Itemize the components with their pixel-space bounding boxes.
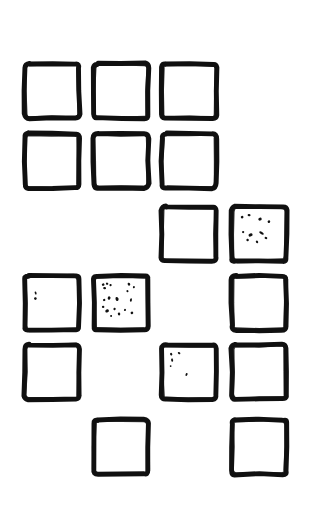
grid-square[interactable] <box>228 272 290 334</box>
speck-mark <box>170 365 172 367</box>
grid-square[interactable] <box>228 341 290 403</box>
grid-square-speckled[interactable] <box>90 272 152 334</box>
square-fill <box>232 345 285 398</box>
grid-gap <box>228 130 290 192</box>
speck-mark <box>102 306 104 308</box>
square-fill <box>162 64 215 117</box>
grid-square[interactable] <box>158 203 220 265</box>
grid-square[interactable] <box>90 130 152 192</box>
square-fill <box>25 64 78 117</box>
square-fill <box>25 134 78 187</box>
speck-mark <box>242 231 244 233</box>
grid-square[interactable] <box>21 60 83 122</box>
square-fill <box>232 420 285 473</box>
square-fill <box>25 276 78 329</box>
figure-canvas <box>0 0 312 517</box>
square-fill <box>232 276 285 329</box>
grid-square[interactable] <box>228 416 290 478</box>
square-fill <box>162 134 215 187</box>
grid-gap <box>21 416 83 478</box>
grid-square[interactable] <box>21 130 83 192</box>
grid-square-speckled[interactable] <box>21 272 83 334</box>
grid-gap <box>158 416 220 478</box>
square-fill <box>162 207 215 260</box>
grid-gap <box>158 272 220 334</box>
square-fill <box>232 207 285 260</box>
grid-gap <box>21 203 83 265</box>
grid-gap <box>90 203 152 265</box>
square-fill <box>25 345 78 398</box>
square-fill <box>94 420 147 473</box>
grid-square[interactable] <box>21 341 83 403</box>
square-fill <box>94 134 147 187</box>
square-fill <box>94 64 147 117</box>
grid-square-speckled[interactable] <box>158 341 220 403</box>
grid-gap <box>228 60 290 122</box>
grid-square[interactable] <box>90 416 152 478</box>
grid-gap <box>90 341 152 403</box>
grid-square-speckled[interactable] <box>228 203 290 265</box>
grid-square[interactable] <box>90 60 152 122</box>
grid-square[interactable] <box>158 130 220 192</box>
grid-square[interactable] <box>158 60 220 122</box>
